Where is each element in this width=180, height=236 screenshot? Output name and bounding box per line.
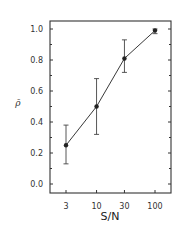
x-tick-label: 3 [63, 202, 68, 211]
series-line [66, 31, 155, 146]
x-tick-label: 30 [119, 202, 129, 211]
y-tick-label: 0.2 [30, 149, 43, 158]
y-tick-label: 0.4 [30, 118, 43, 127]
plot-border [50, 21, 171, 193]
plot-frame [50, 21, 171, 193]
data-point [64, 143, 68, 147]
data-point [94, 104, 98, 108]
y-tick-label: 0.0 [30, 180, 43, 189]
y-tick-label: 0.6 [30, 87, 43, 96]
data-series [64, 28, 158, 164]
y-axis: 0.00.20.40.60.81.0 [30, 25, 171, 189]
chart: 0.00.20.40.60.81.0 31030100 S/N ρ̄ [0, 0, 180, 236]
x-tick-label: 100 [147, 202, 162, 211]
y-axis-title: ρ̄ [14, 98, 21, 108]
y-tick-label: 1.0 [30, 25, 43, 34]
data-point [153, 28, 157, 32]
data-point [122, 56, 126, 60]
x-axis-title: S/N [101, 210, 120, 223]
y-tick-label: 0.8 [30, 56, 43, 65]
